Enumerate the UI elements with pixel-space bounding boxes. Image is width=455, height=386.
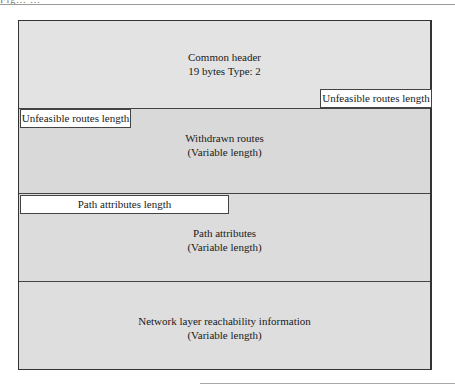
bottom-rule: [200, 383, 455, 384]
path-attributes-section: Path attributes length Path attributes (…: [19, 193, 430, 281]
withdrawn-routes-length: (Variable length): [19, 145, 430, 159]
withdrawn-routes-label: Withdrawn routes: [19, 131, 430, 145]
common-header-label: Common header: [19, 50, 430, 64]
common-header-section: Common header 19 bytes Type: 2 Unfeasibl…: [19, 21, 430, 108]
update-message-diagram: Common header 19 bytes Type: 2 Unfeasibl…: [18, 20, 432, 370]
common-header-detail: 19 bytes Type: 2: [19, 64, 430, 78]
nlri-label: Network layer reachability information: [19, 314, 430, 328]
path-attributes-length-field: Path attributes length: [20, 195, 229, 214]
nlri-section: Network layer reachability information (…: [19, 281, 430, 369]
path-attributes-length: (Variable length): [19, 240, 430, 254]
withdrawn-routes-section: Unfeasible routes length Withdrawn route…: [19, 108, 430, 193]
unfeasible-routes-length-field-left: Unfeasible routes length: [20, 109, 131, 128]
unfeasible-routes-length-field-right: Unfeasible routes length: [320, 89, 432, 108]
nlri-length: (Variable length): [19, 328, 430, 342]
top-rule: [0, 4, 455, 5]
path-attributes-label: Path attributes: [19, 226, 430, 240]
